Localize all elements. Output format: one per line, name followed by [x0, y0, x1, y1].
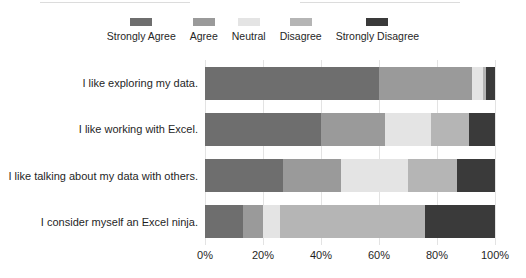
- bar-segment-disagree[interactable]: [280, 205, 425, 238]
- x-axis-tick-labels: 0%20%40%60%80%100%: [205, 249, 495, 265]
- legend-item-agree[interactable]: Agree: [183, 18, 225, 42]
- category-label: I like working with Excel.: [0, 113, 198, 146]
- legend-swatch-icon: [238, 18, 260, 26]
- bar-row[interactable]: [205, 113, 495, 146]
- legend-item-disagree[interactable]: Disagree: [273, 18, 329, 42]
- legend-swatch-icon: [366, 18, 388, 26]
- legend-label: Strongly Disagree: [336, 30, 419, 42]
- bar-segment-strongly-agree[interactable]: [205, 205, 243, 238]
- bar-segment-neutral[interactable]: [263, 205, 280, 238]
- x-tick-label: 40%: [310, 249, 332, 261]
- bar-series-group: [205, 60, 495, 245]
- x-tick-label: 20%: [252, 249, 274, 261]
- bar-segment-neutral[interactable]: [385, 113, 431, 146]
- bar-row[interactable]: [205, 67, 495, 100]
- gridline: [495, 60, 496, 245]
- bar-segment-strongly-agree[interactable]: [205, 113, 321, 146]
- x-tick-label: 100%: [481, 249, 509, 261]
- legend-item-strongly-agree[interactable]: Strongly Agree: [100, 18, 183, 42]
- bar-segment-agree[interactable]: [379, 67, 472, 100]
- x-tick-label: 60%: [368, 249, 390, 261]
- stacked-bar-chart: Strongly AgreeAgreeNeutralDisagreeStrong…: [0, 0, 526, 278]
- bar-row[interactable]: [205, 205, 495, 238]
- legend-swatch-icon: [130, 18, 152, 26]
- bar-segment-strongly-disagree[interactable]: [425, 205, 495, 238]
- bar-segment-neutral[interactable]: [472, 67, 484, 100]
- legend-item-strongly-disagree[interactable]: Strongly Disagree: [329, 18, 426, 42]
- bar-segment-agree[interactable]: [321, 113, 385, 146]
- legend-item-neutral[interactable]: Neutral: [225, 18, 273, 42]
- bar-segment-strongly-agree[interactable]: [205, 67, 379, 100]
- category-label: I like exploring my data.: [0, 67, 198, 100]
- decorative-rule-left: [40, 2, 190, 3]
- decorative-rule-right: [300, 2, 460, 3]
- legend-swatch-icon: [193, 18, 215, 26]
- bar-segment-strongly-agree[interactable]: [205, 159, 283, 192]
- bar-row[interactable]: [205, 159, 495, 192]
- x-tick-label: 80%: [426, 249, 448, 261]
- category-label: I consider myself an Excel ninja.: [0, 205, 198, 238]
- bar-segment-disagree[interactable]: [431, 113, 469, 146]
- legend-label: Strongly Agree: [107, 30, 176, 42]
- legend-label: Neutral: [232, 30, 266, 42]
- bar-segment-agree[interactable]: [243, 205, 263, 238]
- bar-segment-agree[interactable]: [283, 159, 341, 192]
- legend-swatch-icon: [290, 18, 312, 26]
- category-label: I like talking about my data with others…: [0, 159, 198, 192]
- bar-segment-disagree[interactable]: [408, 159, 457, 192]
- bar-segment-neutral[interactable]: [341, 159, 408, 192]
- x-tick-label: 0%: [197, 249, 213, 261]
- bar-segment-strongly-disagree[interactable]: [486, 67, 495, 100]
- plot-area: [205, 60, 495, 245]
- legend-label: Agree: [190, 30, 218, 42]
- chart-legend: Strongly AgreeAgreeNeutralDisagreeStrong…: [0, 18, 526, 42]
- legend-label: Disagree: [280, 30, 322, 42]
- bar-segment-strongly-disagree[interactable]: [469, 113, 495, 146]
- category-axis-labels: I like exploring my data.I like working …: [0, 60, 198, 245]
- bar-segment-strongly-disagree[interactable]: [457, 159, 495, 192]
